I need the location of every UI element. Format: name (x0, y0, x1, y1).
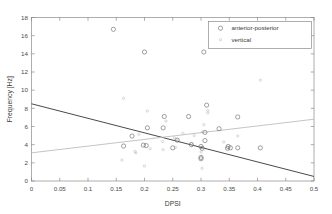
scatter-plot-figure: 00.050.10.150.20.250.30.350.40.450.5 024… (0, 0, 332, 214)
trend-lines (32, 104, 315, 177)
data-point-vertical (161, 140, 163, 142)
legend: anterior-posteriorvertical (209, 22, 312, 49)
data-point-vertical (162, 149, 164, 151)
plot-canvas: 00.050.10.150.20.250.30.350.40.450.5 024… (0, 0, 332, 214)
data-point-vertical (149, 148, 151, 150)
data-point-anterior-posterior (121, 144, 125, 148)
x-axis-tick-labels: 00.050.10.150.20.250.30.350.40.450.5 (30, 185, 319, 192)
y-tick-label: 4 (25, 141, 29, 148)
y-tick-label: 18 (21, 14, 28, 21)
data-point-anterior-posterior (186, 114, 190, 118)
y-tick-label: 14 (21, 50, 28, 57)
data-point-vertical (203, 124, 205, 126)
data-point-vertical (193, 134, 195, 136)
data-point-anterior-posterior (142, 50, 146, 54)
data-point-anterior-posterior (203, 138, 207, 142)
y-tick-label: 10 (21, 86, 28, 93)
x-tick-label: 0.3 (197, 185, 206, 192)
x-tick-label: 0.05 (54, 185, 67, 192)
y-tick-label: 16 (21, 32, 28, 39)
data-point-vertical (146, 110, 148, 112)
data-point-anterior-posterior (236, 146, 240, 150)
data-point-anterior-posterior (130, 134, 134, 138)
y-tick-label: 8 (25, 105, 29, 112)
x-tick-label: 0.45 (280, 185, 293, 192)
data-point-vertical (165, 120, 167, 122)
data-point-anterior-posterior (144, 143, 148, 147)
x-axis-title: DPSI (165, 200, 181, 207)
data-point-anterior-posterior (145, 126, 149, 130)
data-point-anterior-posterior (161, 126, 165, 130)
data-point-vertical (182, 132, 184, 134)
data-point-anterior-posterior (111, 27, 115, 31)
trend-line-vertical-fit (32, 119, 315, 153)
legend-label-open-circle: anterior-posterior (232, 24, 279, 31)
data-point-vertical (143, 165, 145, 167)
data-point-vertical (207, 112, 209, 114)
data-point-vertical (201, 167, 203, 169)
x-tick-label: 0.5 (310, 185, 319, 192)
data-point-vertical (222, 141, 224, 143)
y-tick-label: 2 (25, 159, 29, 166)
x-tick-label: 0.15 (110, 185, 123, 192)
data-point-vertical (237, 135, 239, 137)
data-point-vertical (121, 159, 123, 161)
data-point-anterior-posterior (205, 103, 209, 107)
data-point-anterior-posterior (202, 50, 206, 54)
x-tick-label: 0.2 (140, 185, 149, 192)
data-point-anterior-posterior (258, 146, 262, 150)
data-point-anterior-posterior (162, 114, 166, 118)
data-point-vertical (173, 137, 175, 139)
x-tick-label: 0.25 (167, 185, 180, 192)
data-point-vertical (138, 133, 140, 135)
data-point-vertical (207, 109, 209, 111)
x-tick-label: 0.35 (223, 185, 236, 192)
x-tick-label: 0 (30, 185, 34, 192)
y-tick-label: 6 (25, 123, 29, 130)
y-axis-tick-labels: 024681012141618 (21, 14, 28, 185)
y-tick-label: 12 (21, 68, 28, 75)
data-point-anterior-posterior (236, 115, 240, 119)
x-tick-label: 0.1 (84, 185, 93, 192)
trend-line-anterior-posterior-fit (32, 104, 315, 177)
data-point-vertical (122, 97, 124, 99)
y-tick-label: 0 (25, 177, 29, 184)
y-axis-title: Frequency [Hz] (6, 76, 14, 122)
x-tick-label: 0.4 (253, 185, 262, 192)
data-point-vertical (259, 79, 261, 81)
legend-label-small-dot: vertical (232, 36, 252, 43)
data-point-vertical (200, 151, 202, 153)
series-vertical-markers (121, 79, 262, 169)
